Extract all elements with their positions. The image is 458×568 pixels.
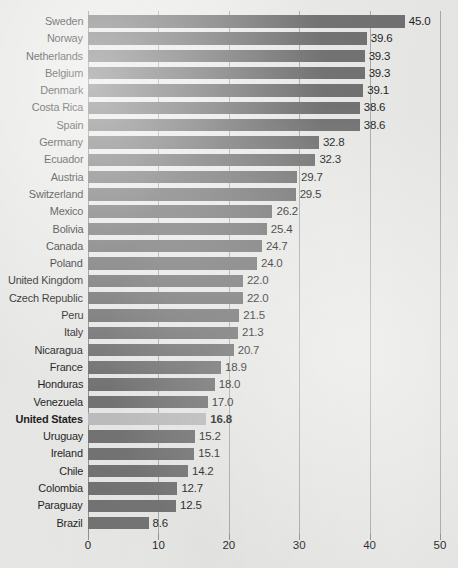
bar bbox=[88, 240, 262, 252]
bar-track: 12.7 bbox=[88, 480, 440, 497]
bar-row: Ecuador32.3 bbox=[0, 151, 458, 168]
x-tick-label: 40 bbox=[363, 539, 376, 551]
bar-value-label: 14.2 bbox=[192, 463, 214, 480]
bar-value-label: 29.5 bbox=[300, 186, 322, 203]
bar-value-label: 24.7 bbox=[266, 238, 288, 255]
bar bbox=[88, 482, 177, 494]
bar-row: Bolivia25.4 bbox=[0, 221, 458, 238]
bar-row: Poland24.0 bbox=[0, 255, 458, 272]
bar bbox=[88, 465, 188, 477]
category-label: Costa Rica bbox=[31, 99, 83, 116]
bar-track: 32.8 bbox=[88, 134, 440, 151]
bar-value-label: 12.5 bbox=[180, 497, 202, 514]
bar-row: United States16.8 bbox=[0, 411, 458, 428]
bar-value-label: 18.9 bbox=[225, 359, 247, 376]
bar-value-label: 39.3 bbox=[369, 65, 391, 82]
bar-value-label: 38.6 bbox=[364, 99, 386, 116]
category-label: Czech Republic bbox=[9, 290, 83, 307]
bar-value-label: 18.0 bbox=[219, 376, 241, 393]
bar bbox=[88, 327, 238, 339]
bar-value-label: 26.2 bbox=[276, 203, 298, 220]
bar-value-label: 39.1 bbox=[367, 82, 389, 99]
bar-track: 39.3 bbox=[88, 48, 440, 65]
bar-row: Brazil8.6 bbox=[0, 515, 458, 532]
bar-track: 32.3 bbox=[88, 151, 440, 168]
category-label: Canada bbox=[46, 238, 83, 255]
bar-row: Switzerland29.5 bbox=[0, 186, 458, 203]
category-label: Bolivia bbox=[52, 221, 83, 238]
category-label: Netherlands bbox=[26, 48, 83, 65]
bar bbox=[88, 257, 257, 269]
category-label: Uruguay bbox=[43, 428, 83, 445]
bar bbox=[88, 154, 315, 166]
bar-row: Uruguay15.2 bbox=[0, 428, 458, 445]
bar-value-label: 32.3 bbox=[319, 151, 341, 168]
bar-track: 24.0 bbox=[88, 255, 440, 272]
bar-value-label: 45.0 bbox=[409, 13, 431, 30]
bar-row: Venezuela17.0 bbox=[0, 394, 458, 411]
bar-row: Austria29.7 bbox=[0, 169, 458, 186]
category-label: Austria bbox=[50, 169, 83, 186]
bar bbox=[88, 50, 365, 62]
bar-row: Denmark39.1 bbox=[0, 82, 458, 99]
bar-row: Netherlands39.3 bbox=[0, 48, 458, 65]
bar-row: United Kingdom22.0 bbox=[0, 272, 458, 289]
bar-value-label: 12.7 bbox=[181, 480, 203, 497]
bar-track: 39.6 bbox=[88, 30, 440, 47]
category-label: Ecuador bbox=[44, 151, 83, 168]
bar-row: Spain38.6 bbox=[0, 117, 458, 134]
bar-track: 20.7 bbox=[88, 342, 440, 359]
bar bbox=[88, 223, 267, 235]
bar-row: Canada24.7 bbox=[0, 238, 458, 255]
category-label: Nicaragua bbox=[35, 342, 83, 359]
bar bbox=[88, 517, 149, 529]
bar bbox=[88, 188, 296, 200]
bar-track: 16.8 bbox=[88, 411, 440, 428]
category-label: Mexico bbox=[50, 203, 83, 220]
bar bbox=[88, 102, 360, 114]
bar bbox=[88, 309, 239, 321]
bar-track: 22.0 bbox=[88, 290, 440, 307]
bar-value-label: 8.6 bbox=[153, 515, 168, 532]
bar-row: Chile14.2 bbox=[0, 463, 458, 480]
bar-value-label: 17.0 bbox=[212, 394, 234, 411]
category-label: Norway bbox=[47, 30, 83, 47]
bar bbox=[88, 448, 194, 460]
category-label: Honduras bbox=[37, 376, 83, 393]
bar-row: Italy21.3 bbox=[0, 324, 458, 341]
bar bbox=[88, 344, 234, 356]
bar-row: Czech Republic22.0 bbox=[0, 290, 458, 307]
bar-value-label: 21.3 bbox=[242, 324, 264, 341]
bar-chart: Sweden45.0Norway39.6Netherlands39.3Belgi… bbox=[0, 0, 458, 568]
bar bbox=[88, 171, 297, 183]
bar-row: Norway39.6 bbox=[0, 30, 458, 47]
category-label: Spain bbox=[56, 117, 83, 134]
category-label: Germany bbox=[39, 134, 83, 151]
bar-track: 29.7 bbox=[88, 169, 440, 186]
bar-value-label: 22.0 bbox=[247, 290, 269, 307]
bar-value-label: 25.4 bbox=[271, 221, 293, 238]
bar-track: 21.3 bbox=[88, 324, 440, 341]
category-label: Switzerland bbox=[29, 186, 83, 203]
bar-value-label: 29.7 bbox=[301, 169, 323, 186]
bar-row: Mexico26.2 bbox=[0, 203, 458, 220]
category-label: Chile bbox=[59, 463, 83, 480]
bar-track: 29.5 bbox=[88, 186, 440, 203]
bar bbox=[88, 32, 367, 44]
bar-track: 26.2 bbox=[88, 203, 440, 220]
bar-track: 15.2 bbox=[88, 428, 440, 445]
bar bbox=[88, 205, 272, 217]
category-label: Peru bbox=[61, 307, 83, 324]
bar-row: Honduras18.0 bbox=[0, 376, 458, 393]
bar-row: France18.9 bbox=[0, 359, 458, 376]
x-tick-label: 0 bbox=[85, 539, 91, 551]
category-label: Brazil bbox=[57, 515, 83, 532]
bar-track: 15.1 bbox=[88, 445, 440, 462]
bar bbox=[88, 396, 208, 408]
category-label: Denmark bbox=[40, 82, 83, 99]
bar bbox=[88, 119, 360, 131]
bar-track: 39.1 bbox=[88, 82, 440, 99]
bar-row: Ireland15.1 bbox=[0, 445, 458, 462]
category-label: Poland bbox=[50, 255, 83, 272]
bar-track: 24.7 bbox=[88, 238, 440, 255]
